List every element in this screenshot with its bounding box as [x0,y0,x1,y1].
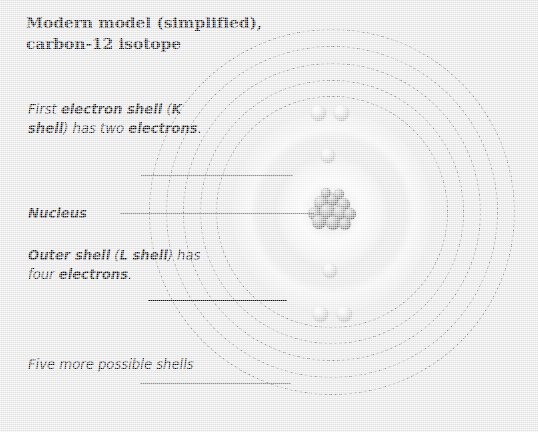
callout-five-more-shells: Five more possible shells [28,355,203,374]
callout-text-segment: electrons [128,121,197,136]
callout-outer-shell: Outer shell (L shell) has four electrons… [28,246,203,285]
atom-diagram-canvas: Modern model (simplified), carbon-12 iso… [0,0,538,432]
callout-text-segment: L shell [120,248,168,263]
leader-k-shell [141,175,293,176]
callout-text-segment: . [128,267,132,282]
nucleon [321,188,331,198]
nucleon [312,215,326,229]
callout-text-segment: Outer shell [28,248,110,263]
nucleon [334,189,344,199]
leader-more-shells [140,383,291,384]
electron-l-shell [313,306,328,321]
nucleon [326,216,340,230]
callout-text-segment: Five more possible shells [28,357,194,372]
leader-outer-shell [148,300,287,301]
callout-text-segment: electrons [59,267,128,282]
callout-text-segment: ) has two [63,121,128,136]
nucleon [339,218,351,230]
electron-l-shell [334,105,349,120]
electron-l-shell [311,105,326,120]
electron-l-shell [337,306,352,321]
electron-k-shell [321,148,335,162]
callout-text-segment: ( [110,248,119,263]
page-title: Modern model (simplified), carbon-12 iso… [26,12,296,55]
callout-first-electron-shell: First electron shell (K shell) has two e… [28,100,203,139]
callout-text-segment: electron shell [61,102,162,117]
callout-text-segment: First [28,102,61,117]
electron-k-shell [323,263,337,277]
callout-text-segment: . [198,121,202,136]
callout-text-segment: ( [162,102,171,117]
callout-text-segment: Nucleus [28,206,87,221]
callout-nucleus: Nucleus [28,204,178,223]
title-line-2: carbon-12 isotope [26,34,181,53]
title-line-1: Modern model (simplified), [26,13,262,32]
